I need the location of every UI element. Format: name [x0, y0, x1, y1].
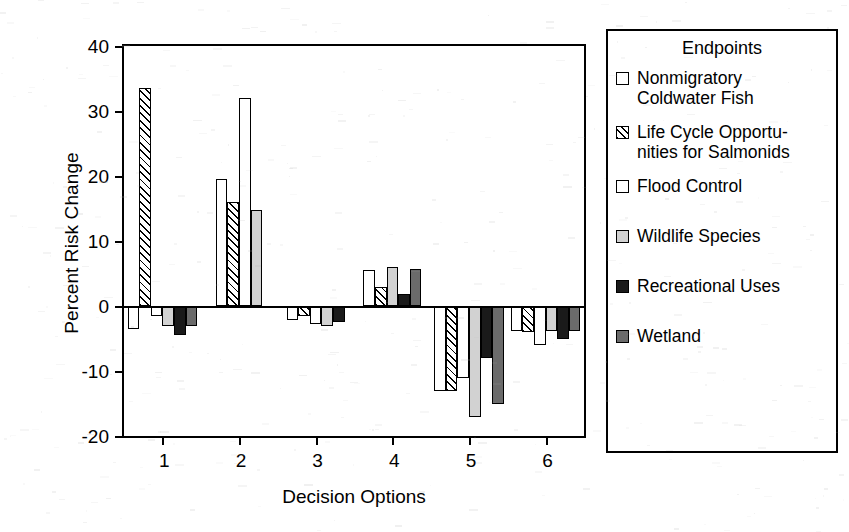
bar	[398, 294, 410, 306]
x-axis-tick: 5	[469, 436, 471, 445]
bar	[227, 202, 239, 306]
y-axis-tick-label: -20	[53, 426, 109, 448]
bar	[321, 306, 333, 326]
bar	[410, 269, 422, 306]
bar	[557, 306, 569, 339]
bar	[492, 306, 504, 404]
x-axis-tick-label: 2	[221, 450, 261, 472]
y-axis-tick: 20	[115, 176, 124, 178]
legend-swatch-icon	[616, 230, 629, 243]
chart-figure: Percent Risk Change 403020100-10-2012345…	[0, 0, 849, 532]
legend-item[interactable]: Wetland	[614, 326, 830, 346]
legend-item-label: Wetland	[637, 326, 701, 346]
bar	[546, 306, 558, 331]
x-axis-tick-label: 3	[298, 450, 338, 472]
bar	[363, 270, 375, 306]
bar	[481, 306, 493, 358]
y-axis-tick: 30	[115, 111, 124, 113]
legend-item-label: Flood Control	[637, 176, 742, 196]
bar	[186, 306, 198, 326]
bars-layer	[124, 46, 584, 436]
bar	[534, 306, 546, 345]
bar	[239, 98, 251, 306]
legend-item-label: Recreational Uses	[637, 276, 780, 296]
y-axis-tick-label: 0	[53, 296, 109, 318]
y-axis-tick-label: 30	[53, 101, 109, 123]
y-axis-tick-label: -10	[53, 361, 109, 383]
x-axis-tick: 6	[546, 436, 548, 445]
legend-item[interactable]: Flood Control	[614, 176, 830, 196]
x-axis-tick: 4	[392, 436, 394, 445]
bar	[287, 306, 299, 320]
legend-item-label: Life Cycle Opportu- nities for Salmonids	[637, 122, 790, 162]
bar	[569, 306, 581, 331]
y-axis-tick: 40	[115, 46, 124, 48]
y-axis-tick-label: 10	[53, 231, 109, 253]
x-axis-tick: 1	[162, 436, 164, 445]
bar	[251, 210, 263, 306]
x-axis-tick-label: 1	[144, 450, 184, 472]
legend-box: Endpoints Nonmigratory Coldwater FishLif…	[606, 29, 838, 453]
x-axis-tick: 3	[316, 436, 318, 445]
legend-swatch-icon	[616, 72, 629, 85]
bar	[333, 306, 345, 322]
legend-swatch-icon	[616, 126, 629, 139]
plot-area: 403020100-10-20123456	[122, 44, 586, 438]
bar	[375, 287, 387, 307]
x-axis-tick-label: 4	[374, 450, 414, 472]
bar	[387, 267, 399, 306]
y-axis-tick-label: 20	[53, 166, 109, 188]
legend-swatch-icon	[616, 180, 629, 193]
legend-item-label: Wildlife Species	[637, 226, 761, 246]
bar	[139, 88, 151, 306]
y-axis-tick: -10	[115, 371, 124, 373]
bar	[216, 179, 228, 306]
x-axis-tick-label: 5	[451, 450, 491, 472]
bar	[434, 306, 446, 391]
legend-item[interactable]: Recreational Uses	[614, 276, 830, 296]
legend-item-label: Nonmigratory Coldwater Fish	[637, 68, 754, 108]
x-axis-title: Decision Options	[122, 486, 586, 508]
bar	[446, 306, 458, 391]
y-axis-tick-label: 40	[53, 36, 109, 58]
bar	[511, 306, 523, 331]
y-axis-tick: -20	[115, 436, 124, 438]
legend-items: Nonmigratory Coldwater FishLife Cycle Op…	[614, 68, 830, 346]
bar	[162, 306, 174, 326]
zero-baseline	[124, 306, 584, 308]
bar	[310, 306, 322, 324]
legend-swatch-icon	[616, 280, 629, 293]
bar	[174, 306, 186, 335]
bar	[469, 306, 481, 417]
legend-swatch-icon	[616, 330, 629, 343]
bar	[457, 306, 469, 378]
legend-item[interactable]: Life Cycle Opportu- nities for Salmonids	[614, 122, 830, 162]
y-axis-tick: 10	[115, 241, 124, 243]
bar	[522, 306, 534, 332]
y-axis-tick: 0	[115, 306, 124, 308]
legend-item[interactable]: Wildlife Species	[614, 226, 830, 246]
bar	[128, 306, 140, 329]
legend-title: Endpoints	[614, 38, 830, 59]
legend-item[interactable]: Nonmigratory Coldwater Fish	[614, 68, 830, 108]
x-axis-tick: 2	[239, 436, 241, 445]
x-axis-tick-label: 6	[528, 450, 568, 472]
